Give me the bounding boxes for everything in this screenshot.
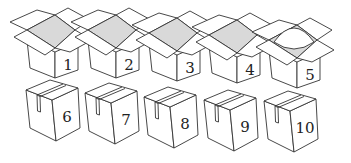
box-number-label: 7 bbox=[121, 111, 131, 129]
tape-flap bbox=[275, 106, 279, 123]
closed-box: 9 bbox=[204, 90, 258, 151]
tape-flap bbox=[37, 95, 41, 112]
closed-box: 6 bbox=[26, 80, 80, 141]
tape-flap bbox=[96, 98, 100, 115]
tape-flap bbox=[215, 105, 219, 122]
open-box: 5 bbox=[252, 18, 334, 88]
closed-box: 8 bbox=[144, 87, 198, 148]
box-number-label: 3 bbox=[185, 59, 195, 77]
box-number-label: 1 bbox=[63, 56, 73, 74]
open-box: 3 bbox=[132, 11, 214, 81]
box-number-label: 8 bbox=[180, 115, 190, 133]
box-number-label: 10 bbox=[295, 119, 314, 137]
boxes-diagram: 67891012345 bbox=[0, 0, 351, 163]
closed-box: 10 bbox=[264, 91, 318, 152]
box-number-label: 9 bbox=[240, 118, 250, 136]
box-number-label: 6 bbox=[62, 108, 72, 126]
box-number-label: 2 bbox=[124, 56, 134, 74]
box-number-label: 5 bbox=[305, 66, 315, 84]
boxes-figure: 67891012345 bbox=[0, 0, 351, 163]
box-number-label: 4 bbox=[245, 61, 255, 79]
closed-box: 7 bbox=[85, 83, 139, 144]
tape-flap bbox=[155, 102, 159, 119]
